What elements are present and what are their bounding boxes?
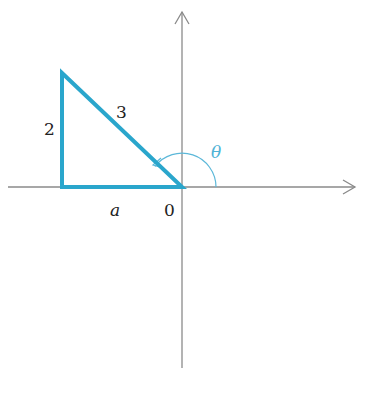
label-horizontal-side: a [110, 202, 120, 219]
label-angle-theta: θ [211, 144, 221, 161]
label-origin: 0 [164, 202, 175, 219]
label-vertical-side: 2 [44, 121, 55, 138]
y-axis [175, 12, 189, 368]
coordinate-diagram [0, 0, 375, 401]
right-triangle [62, 73, 182, 187]
label-hypotenuse: 3 [116, 104, 127, 121]
